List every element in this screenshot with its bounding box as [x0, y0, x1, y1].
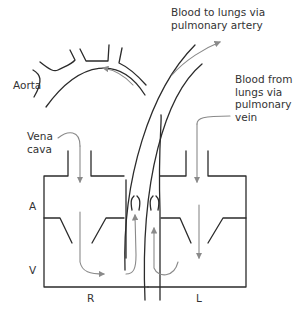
- label-pulmonary-artery: Blood to lungs via pulmonary artery: [171, 6, 265, 31]
- label-atrium: A: [29, 200, 36, 213]
- label-right: R: [87, 292, 94, 305]
- heart-diagram: Aorta Vena cava Blood to lungs via pulmo…: [0, 0, 299, 315]
- aorta-vessel: [33, 45, 146, 107]
- label-ventricle: V: [29, 264, 36, 277]
- pulmonary-artery-vessel: [125, 42, 220, 300]
- label-aorta: Aorta: [13, 79, 41, 92]
- label-pulmonary-vein: Blood from lungs via pulmonary vein: [235, 73, 292, 123]
- label-left: L: [196, 292, 202, 305]
- label-vena-cava: Vena cava: [27, 130, 53, 155]
- diagram-canvas: [0, 0, 299, 315]
